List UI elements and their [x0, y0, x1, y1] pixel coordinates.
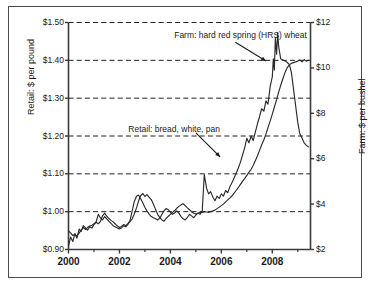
annotation-arrows-group — [196, 42, 266, 157]
right-axis-tick-8: $8 — [316, 108, 344, 118]
left-axis-tick-100: $1.00 — [22, 206, 64, 216]
annotation-arrow-line-0 — [235, 42, 266, 61]
x-axis-tick-2002: 2002 — [99, 256, 139, 267]
figure-canvas: $0.90$1.00$1.10$1.20$1.30$1.40$1.50 $2$4… — [0, 0, 371, 291]
series-line-retail-bread — [69, 60, 309, 237]
tick-marks-group — [65, 23, 314, 254]
data-series-group — [69, 33, 309, 246]
gridlines-group — [69, 23, 311, 212]
right-axis-tick-12: $12 — [316, 17, 344, 27]
x-axis-tick-2004: 2004 — [150, 256, 190, 267]
annotation-retail-bread: Retail: bread, white, pan — [128, 124, 220, 134]
left-axis-tick-120: $1.20 — [22, 131, 64, 141]
right-axis-tick-4: $4 — [316, 199, 344, 209]
annotation-arrow-line-1 — [196, 133, 220, 157]
right-axis-tick-6: $6 — [316, 153, 344, 163]
x-axis-tick-2000: 2000 — [49, 256, 89, 267]
right-axis-title: Farm: $ per bushel — [357, 79, 367, 155]
right-axis-tick-10: $10 — [316, 62, 344, 72]
annotation-farm-wheat: Farm: hard red spring (HRS) wheat — [174, 30, 307, 40]
left-axis-tick-090: $0.90 — [22, 244, 64, 254]
x-axis-tick-2006: 2006 — [201, 256, 241, 267]
left-axis-tick-150: $1.50 — [22, 17, 64, 27]
x-axis-tick-2008: 2008 — [252, 256, 292, 267]
left-axis-tick-110: $1.10 — [22, 168, 64, 178]
right-axis-tick-2: $2 — [316, 244, 344, 254]
left-axis-title: Retail: $ per pound — [26, 39, 36, 115]
